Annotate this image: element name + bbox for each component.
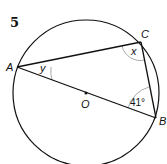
- angle-x: x: [130, 45, 137, 57]
- circle-diagram: 5 A C B O y x 41°: [0, 0, 167, 164]
- label-o: O: [81, 98, 90, 110]
- label-a: A: [5, 61, 13, 73]
- label-b: B: [159, 115, 166, 127]
- segment-ac: [17, 42, 141, 67]
- question-number: 5: [10, 15, 19, 30]
- label-c: C: [141, 28, 149, 40]
- angle-b-value: 41°: [130, 97, 145, 108]
- angle-y: y: [39, 62, 47, 74]
- center-point: [85, 92, 88, 95]
- angle-arc-a: [51, 67, 52, 80]
